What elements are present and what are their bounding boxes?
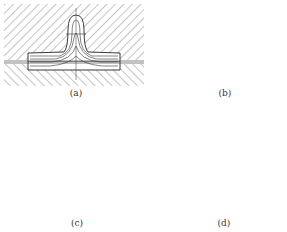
diagram-canvas xyxy=(0,0,287,232)
caption-d: (d) xyxy=(204,218,244,228)
caption-b: (b) xyxy=(205,88,245,98)
caption-a: (a) xyxy=(56,88,96,98)
panel-a xyxy=(4,4,144,86)
caption-c: (c) xyxy=(57,218,97,228)
